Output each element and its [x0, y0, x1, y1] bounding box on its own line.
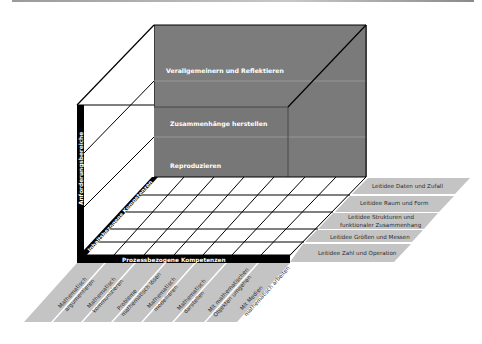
competence-cube-diagram: Verallgemeinern und Reflektieren Zusamme… [0, 0, 482, 344]
axis-label-levels: Anforderungsbereiche [78, 132, 85, 205]
content-label-space: Leitidee Raum und Form [360, 200, 428, 206]
level-label-reproduce: Reproduzieren [170, 162, 221, 170]
level-label-connect: Zusammenhänge herstellen [170, 120, 267, 128]
axis-label-process: Prozessbezogene Kompetenzen [122, 257, 226, 264]
content-label-numbers: Leitidee Zahl und Operation [318, 250, 397, 257]
level-label-reflect: Verallgemeinern und Reflektieren [166, 67, 284, 75]
process-competency-labels: Mathematisch argumentieren Mathematisch … [24, 260, 291, 322]
content-label-data: Leitidee Daten und Zufall [372, 183, 443, 189]
content-label-sizes: Leitidee Größen und Messen [330, 234, 410, 240]
content-label-structures-1: Leitidee Strukturen und [348, 214, 415, 220]
content-label-structures-2: funktionaler Zusammenhang [340, 222, 422, 229]
